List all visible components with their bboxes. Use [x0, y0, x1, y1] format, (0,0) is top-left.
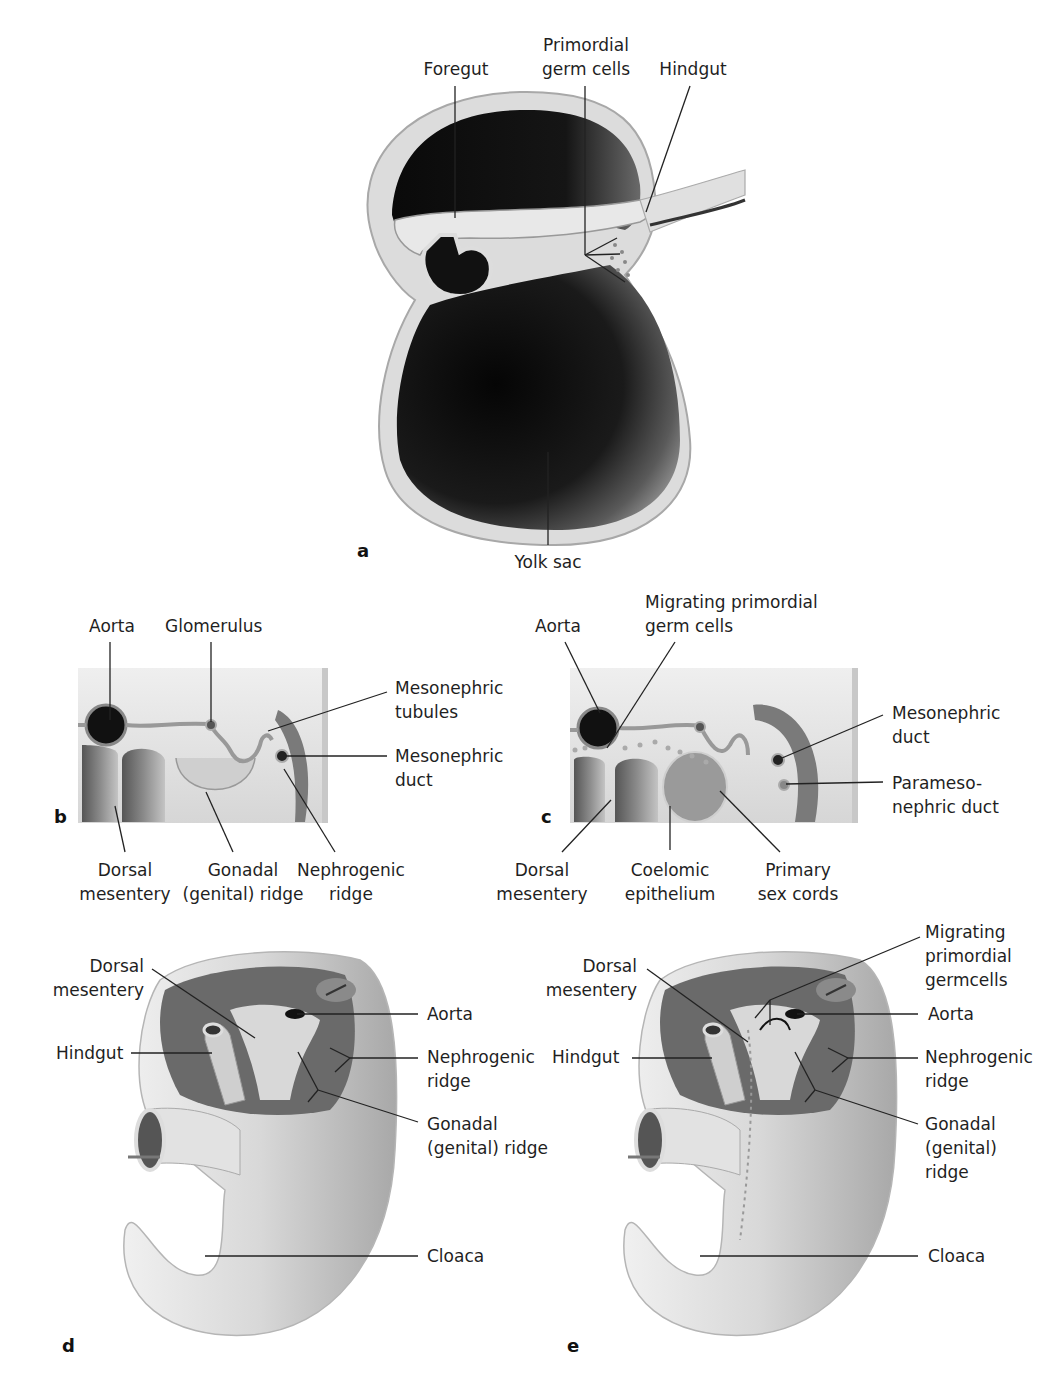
label-d-cloaca: Cloaca	[427, 1244, 484, 1268]
label-e-gonadal-ridge: Gonadal (genital) ridge	[925, 1112, 997, 1184]
label-a-hindgut: Hindgut	[655, 57, 731, 81]
label-c-dorsal-mesentery: Dorsal mesentery	[492, 858, 592, 906]
label-b-dorsal-mesentery: Dorsal mesentery	[75, 858, 175, 906]
label-e-migrating-pgc: Migrating primordial germcells	[925, 920, 1012, 992]
panel-e-illustration	[624, 952, 897, 1336]
panel-c-illustration	[570, 668, 858, 823]
label-e-cloaca: Cloaca	[928, 1244, 985, 1268]
label-a-foregut: Foregut	[418, 57, 494, 81]
label-b-nephrogenic-ridge: Nephrogenic ridge	[295, 858, 407, 906]
label-b-mesonephric-tubules: Mesonephric tubules	[395, 676, 503, 724]
label-c-mesonephric-duct: Mesonephric duct	[892, 701, 1000, 749]
label-b-aorta: Aorta	[84, 614, 140, 638]
label-e-aorta: Aorta	[928, 1002, 974, 1026]
panel-letter-a: a	[357, 540, 369, 561]
label-c-paramesonephric-duct: Parameso- nephric duct	[892, 771, 999, 819]
label-d-gonadal-ridge: Gonadal (genital) ridge	[427, 1112, 548, 1160]
label-c-aorta: Aorta	[530, 614, 586, 638]
panel-letter-b: b	[54, 806, 67, 827]
label-d-nephrogenic-ridge: Nephrogenic ridge	[427, 1045, 535, 1093]
label-d-dorsal-mesentery: Dorsal mesentery	[44, 954, 144, 1002]
label-b-mesonephric-duct: Mesonephric duct	[395, 744, 503, 792]
figure-artwork	[0, 0, 1061, 1391]
panel-d-illustration	[124, 952, 397, 1336]
label-e-hindgut: Hindgut	[552, 1045, 619, 1069]
label-e-dorsal-mesentery: Dorsal mesentery	[537, 954, 637, 1002]
panel-letter-c: c	[541, 806, 552, 827]
panel-letter-e: e	[567, 1335, 579, 1356]
label-a-yolk-sac: Yolk sac	[498, 550, 598, 574]
label-c-migrating-pgc: Migrating primordial germ cells	[645, 590, 818, 638]
panel-b-illustration	[78, 668, 328, 823]
label-b-glomerulus: Glomerulus	[165, 614, 261, 638]
label-a-primordial-germ-cells: Primordial germ cells	[530, 33, 642, 81]
label-d-hindgut: Hindgut	[56, 1041, 123, 1065]
label-c-coelomic-epithelium: Coelomic epithelium	[620, 858, 720, 906]
label-b-gonadal-ridge: Gonadal (genital) ridge	[182, 858, 304, 906]
label-d-aorta: Aorta	[427, 1002, 473, 1026]
label-c-primary-sex-cords: Primary sex cords	[750, 858, 846, 906]
panel-a-illustration	[367, 92, 745, 545]
panel-letter-d: d	[62, 1335, 75, 1356]
label-e-nephrogenic-ridge: Nephrogenic ridge	[925, 1045, 1033, 1093]
